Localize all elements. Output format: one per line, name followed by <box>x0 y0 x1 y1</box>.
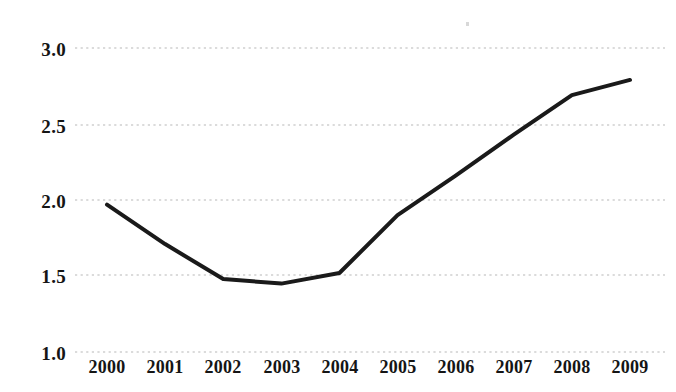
x-axis-tick-2006: 2006 <box>427 358 485 376</box>
x-axis-tick-2009: 2009 <box>601 358 659 376</box>
x-axis-tick-2003: 2003 <box>253 358 311 376</box>
x-axis-tick-2008: 2008 <box>543 358 601 376</box>
x-axis-tick-2002: 2002 <box>194 358 252 376</box>
x-axis-tick-2007: 2007 <box>485 358 543 376</box>
x-axis-tick-2004: 2004 <box>311 358 369 376</box>
scan-artifact-speck <box>466 22 469 26</box>
y-axis-tick-2-0: 2.0 <box>20 192 66 211</box>
y-axis-tick-2-5: 2.5 <box>20 117 66 136</box>
y-axis-tick-1-0: 1.0 <box>20 344 66 363</box>
x-axis-tick-2000: 2000 <box>78 358 136 376</box>
y-axis-tick-1-5: 1.5 <box>20 267 66 286</box>
plot-area <box>0 0 676 392</box>
y-axis-tick-3-0: 3.0 <box>20 40 66 59</box>
x-axis-tick-2005: 2005 <box>369 358 427 376</box>
data-series-line <box>107 80 630 284</box>
line-chart-figure: 3.0 2.5 2.0 1.5 1.0 2000 2001 2002 2003 … <box>0 0 676 392</box>
x-axis-tick-2001: 2001 <box>136 358 194 376</box>
